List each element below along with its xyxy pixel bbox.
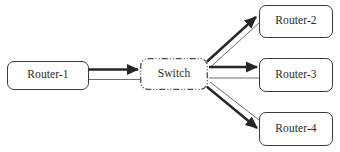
edge-switch-router2-out bbox=[206, 17, 256, 63]
node-router-1[interactable]: Router-1 bbox=[7, 61, 89, 90]
node-router-3[interactable]: Router-3 bbox=[259, 58, 333, 92]
edge-switch-router4-out bbox=[206, 86, 257, 128]
node-switch[interactable]: Switch bbox=[140, 58, 208, 90]
edge-switch-router2-in bbox=[210, 23, 259, 68]
node-router-1-label: Router-1 bbox=[27, 69, 68, 82]
node-router-2-label: Router-2 bbox=[275, 15, 316, 28]
edge-switch-router4-in bbox=[210, 82, 259, 120]
node-switch-label: Switch bbox=[158, 68, 191, 81]
node-router-4-label: Router-4 bbox=[275, 123, 316, 136]
node-router-3-label: Router-3 bbox=[275, 69, 316, 82]
node-router-2[interactable]: Router-2 bbox=[259, 5, 333, 38]
node-router-4[interactable]: Router-4 bbox=[259, 112, 333, 146]
network-topology-diagram: Router-1 Switch Router-2 Router-3 Router… bbox=[0, 0, 340, 152]
